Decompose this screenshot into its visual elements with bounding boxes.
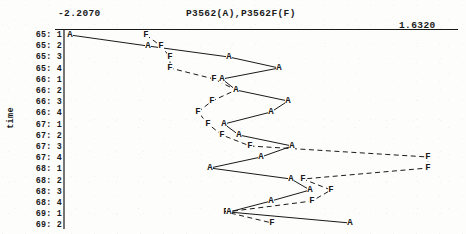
data-point-marker-f: F (247, 142, 253, 151)
data-point-marker-a: A (233, 86, 239, 95)
data-point-marker-a: A (289, 142, 295, 151)
data-point-marker-f: F (158, 42, 164, 51)
y-axis-tick-label: 68: 1 (22, 164, 62, 174)
y-axis-tick-label: 68: 2 (22, 176, 62, 186)
y-axis-tick-label: 66: 3 (22, 97, 62, 107)
series-f-polyline (146, 35, 428, 223)
data-point-marker-f: F (143, 31, 149, 40)
data-point-marker-f: F (328, 186, 334, 195)
y-axis-tick-label: 67: 3 (22, 142, 62, 152)
y-axis-tick-label: 67: 4 (22, 153, 62, 163)
data-point-marker-f: F (195, 108, 201, 117)
data-point-marker-a: A (207, 164, 213, 173)
data-point-marker-a: A (236, 131, 242, 140)
data-point-marker-f: F (211, 75, 217, 84)
y-axis-tick-label: 65: 3 (22, 52, 62, 62)
data-point-marker-a: A (307, 186, 313, 195)
data-point-marker-f: F (209, 97, 215, 106)
data-point-marker-f: F (425, 153, 431, 162)
y-axis-tick-label: 68: 3 (22, 187, 62, 197)
data-point-marker-f: F (167, 53, 173, 62)
y-axis-tick-label: 69: 1 (22, 209, 62, 219)
data-point-marker-a: A (276, 64, 282, 73)
y-axis-tick-label: 67: 2 (22, 131, 62, 141)
data-point-marker-a: A (268, 197, 274, 206)
data-point-marker-a: A (226, 53, 232, 62)
data-point-marker-a: A (347, 219, 353, 228)
data-point-marker-a: A (219, 75, 225, 84)
data-point-marker-f: F (269, 219, 275, 228)
data-point-marker-a: A (288, 175, 294, 184)
data-point-marker-a: A (67, 31, 73, 40)
y-axis-tick-label: 66: 2 (22, 86, 62, 96)
data-point-marker-a: A (258, 153, 264, 162)
y-axis-tick-label: 66: 4 (22, 108, 62, 118)
data-point-marker-a: A (226, 208, 232, 217)
data-point-marker-f: F (219, 131, 225, 140)
y-axis-tick-label: 65: 4 (22, 64, 62, 74)
data-point-marker-a: A (221, 120, 227, 129)
y-axis-tick-label: 67: 1 (22, 120, 62, 130)
data-point-marker-f: F (300, 175, 306, 184)
data-point-marker-a: A (145, 42, 151, 51)
data-point-marker-f: F (205, 120, 211, 129)
y-axis-tick-label: 65: 1 (22, 30, 62, 40)
data-point-marker-a: A (285, 97, 291, 106)
data-point-marker-a: A (268, 108, 274, 117)
plot-root: P3562(A),P3562F(F) -2.2070 1.6320 time 6… (0, 0, 466, 234)
data-point-marker-f: F (167, 64, 173, 73)
y-axis-tick-label: 68: 4 (22, 198, 62, 208)
data-point-marker-f: F (309, 197, 315, 206)
data-point-marker-f: F (425, 164, 431, 173)
y-axis-tick-label: 65: 2 (22, 41, 62, 51)
y-axis-tick-label: 69: 2 (22, 220, 62, 230)
series-a-polyline (70, 35, 350, 223)
y-axis-tick-label: 66: 1 (22, 75, 62, 85)
axis-lines (55, 30, 458, 230)
